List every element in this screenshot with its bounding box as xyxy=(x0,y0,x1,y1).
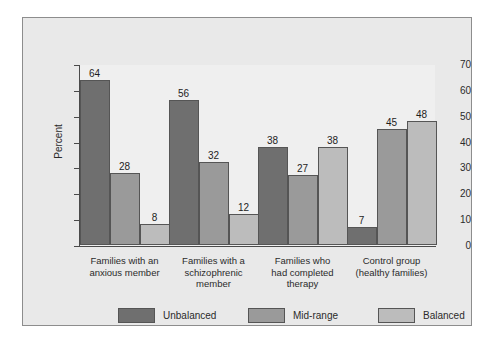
legend-swatch xyxy=(118,308,155,323)
bar xyxy=(258,147,288,245)
bar-value-label: 28 xyxy=(102,161,148,172)
legend-swatch xyxy=(378,308,415,323)
chart-panel: 010203040506070 Percent 6428856321238273… xyxy=(22,17,472,326)
chart-figure: 010203040506070 Percent 6428856321238273… xyxy=(0,0,496,342)
y-axis-title: Percent xyxy=(53,102,64,182)
y-tick-label: 60 xyxy=(427,86,471,96)
legend-label: Unbalanced xyxy=(163,310,216,321)
bar xyxy=(347,227,377,245)
x-axis-line xyxy=(79,246,436,247)
chart-legend: UnbalancedMid-rangeBalanced xyxy=(80,307,435,329)
bar xyxy=(407,121,437,245)
bar xyxy=(140,224,170,245)
bar xyxy=(288,175,318,245)
bar-value-label: 48 xyxy=(399,109,445,120)
bar xyxy=(318,147,348,245)
bar xyxy=(229,214,259,245)
legend-label: Mid-range xyxy=(293,310,338,321)
category-label-line: (healthy families) xyxy=(337,267,447,279)
bar-value-label: 32 xyxy=(191,150,237,161)
legend-swatch xyxy=(248,308,285,323)
category-label-line: Control group xyxy=(337,255,447,267)
y-tick-mark xyxy=(74,246,80,247)
bar xyxy=(377,129,407,245)
y-tick-mark xyxy=(74,65,80,66)
bar-value-label: 38 xyxy=(310,135,356,146)
category-label-line: therapy xyxy=(248,278,358,290)
y-tick-label: 70 xyxy=(427,60,471,70)
bar-value-label: 56 xyxy=(161,88,207,99)
bar-value-label: 64 xyxy=(72,68,118,79)
bar xyxy=(110,173,140,245)
bar-value-label: 38 xyxy=(250,135,296,146)
legend-label: Balanced xyxy=(423,310,465,321)
bar xyxy=(169,100,199,245)
category-label: Control group(healthy families) xyxy=(337,255,447,278)
